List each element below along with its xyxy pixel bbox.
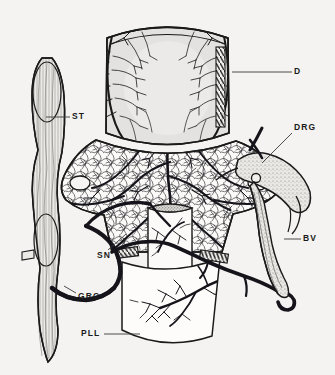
label-D: D	[294, 67, 301, 76]
intervertebral-disc	[85, 27, 251, 145]
label-BV: BV	[303, 234, 317, 243]
illustration-canvas	[0, 0, 335, 375]
anatomical-illustration: INNERVATION OF THE DISC	[0, 0, 335, 375]
label-ST: ST	[72, 112, 85, 121]
label-DRG: DRG	[294, 123, 316, 132]
inset-cutaway-cylinder	[148, 204, 192, 273]
label-GRC: GRC	[78, 292, 100, 301]
label-PLL: PLL	[81, 329, 100, 338]
label-SN: SN	[97, 251, 111, 260]
